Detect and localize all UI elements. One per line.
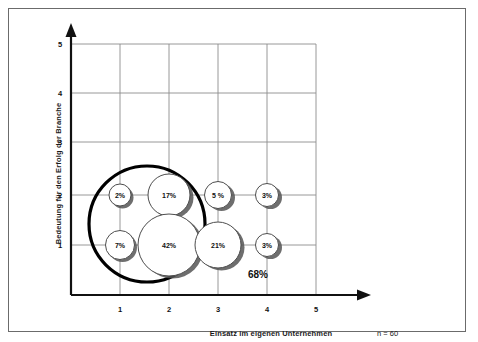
y-axis: [66, 23, 77, 295]
y-tick-label: 5: [53, 40, 67, 49]
x-axis-title: Einsatz im eigenen Unternehmen: [181, 329, 361, 338]
bubble-label: 5 %: [212, 192, 224, 199]
bubble-label: 2%: [115, 192, 125, 199]
sample-size-annotation: n = 60: [377, 329, 398, 338]
x-axis: [71, 290, 371, 301]
bubble-label: 7%: [115, 242, 125, 249]
x-tick-label: 5: [309, 305, 323, 314]
plot-area: [9, 9, 465, 331]
group-circle-label: 68%: [248, 269, 268, 280]
bubble-label: 3%: [262, 242, 272, 249]
bubble-label: 3%: [262, 192, 272, 199]
x-tick-label: 2: [162, 305, 176, 314]
grid-horizontal: [71, 44, 316, 245]
x-tick-label: 1: [113, 305, 127, 314]
bubble-label: 17%: [162, 192, 176, 199]
x-tick-label: 3: [211, 305, 225, 314]
bubble-chart-figure: 2% 17% 5 % 3% 7% 42% 21% 3% 68% 1 2 3 4 …: [0, 0, 478, 342]
bubble-label: 42%: [162, 242, 176, 249]
y-axis-title: Bedeutung für den Erfolg der Branche: [54, 79, 63, 269]
figure-frame: 2% 17% 5 % 3% 7% 42% 21% 3% 68% 1 2 3 4 …: [8, 8, 466, 332]
x-tick-label: 4: [260, 305, 274, 314]
bubble-label: 21%: [211, 242, 225, 249]
